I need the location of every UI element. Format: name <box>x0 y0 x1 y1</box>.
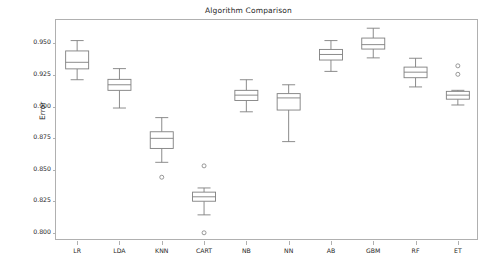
page-title: Algorithm Comparison <box>0 6 497 15</box>
boxplot-cart <box>193 164 216 235</box>
y-tick-label: 0.900 <box>33 102 51 109</box>
x-tick-mark <box>246 241 247 245</box>
boxplot-nb <box>235 80 258 112</box>
x-tick-mark <box>458 241 459 245</box>
figure-canvas: Algorithm Comparison Error 0.8000.8250.8… <box>0 0 497 269</box>
x-tick-mark <box>331 241 332 245</box>
outlier-marker <box>202 231 206 235</box>
box-iqr <box>277 94 300 110</box>
box-iqr <box>150 132 173 149</box>
x-tick-label: LR <box>73 247 81 254</box>
boxplot-series <box>56 20 479 241</box>
box-iqr <box>66 51 89 69</box>
x-tick-mark <box>119 241 120 245</box>
y-tick-label: 0.950 <box>33 38 51 45</box>
x-tick-label: KNN <box>155 247 168 254</box>
x-tick-label: NN <box>284 247 293 254</box>
x-tick-label: ET <box>454 247 462 254</box>
outlier-marker <box>202 164 206 168</box>
y-tick-label: 0.825 <box>33 196 51 203</box>
y-tick-label: 0.850 <box>33 165 51 172</box>
y-tick-label: 0.875 <box>33 133 51 140</box>
x-tick-label: CART <box>196 247 212 254</box>
x-tick-label: LDA <box>113 247 125 254</box>
x-tick-label: GBM <box>366 247 380 254</box>
x-tick-mark <box>162 241 163 245</box>
boxplot-ab <box>319 41 342 72</box>
x-tick-mark <box>204 241 205 245</box>
x-tick-mark <box>416 241 417 245</box>
y-tick-label: 0.800 <box>33 228 51 235</box>
x-tick-mark <box>289 241 290 245</box>
y-tick-label: 0.925 <box>33 70 51 77</box>
x-tick-mark <box>373 241 374 245</box>
x-tick-mark <box>77 241 78 245</box>
boxplot-gbm <box>362 28 385 58</box>
x-tick-label: NB <box>242 247 251 254</box>
outlier-marker <box>160 175 164 179</box>
outlier-marker <box>456 64 460 68</box>
plot-axes: Error 0.8000.8250.8500.8750.9000.9250.95… <box>55 19 478 240</box>
boxplot-knn <box>150 118 173 180</box>
x-tick-label: RF <box>412 247 420 254</box>
outlier-marker <box>456 72 460 76</box>
boxplot-lr <box>66 41 89 80</box>
boxplot-nn <box>277 85 300 142</box>
boxplot-lda <box>108 69 131 108</box>
boxplot-rf <box>404 58 427 87</box>
box-iqr <box>362 38 385 49</box>
x-tick-label: AB <box>327 247 335 254</box>
boxplot-et <box>446 64 469 105</box>
